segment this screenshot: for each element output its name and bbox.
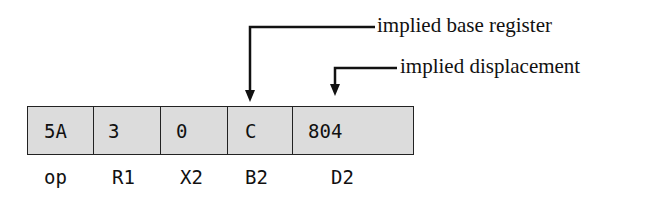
label-x2: X2 bbox=[180, 166, 203, 188]
label-op: op bbox=[44, 166, 67, 188]
field-x2: 0 bbox=[161, 107, 228, 154]
arrow-disp-icon bbox=[330, 84, 340, 96]
label-r1: R1 bbox=[112, 166, 135, 188]
label-d2: D2 bbox=[331, 166, 354, 188]
field-r1: 3 bbox=[94, 107, 161, 154]
instruction-box: 5A 3 0 C 804 bbox=[27, 106, 414, 155]
annotation-displacement: implied displacement bbox=[400, 54, 580, 79]
field-b2: C bbox=[228, 107, 293, 154]
arrow-base-icon bbox=[245, 90, 255, 102]
field-d2: 804 bbox=[293, 107, 413, 154]
field-op: 5A bbox=[28, 107, 94, 154]
label-b2: B2 bbox=[245, 166, 268, 188]
annotation-base: implied base register bbox=[377, 13, 552, 38]
instruction-format-diagram: implied base register implied displaceme… bbox=[0, 0, 648, 205]
